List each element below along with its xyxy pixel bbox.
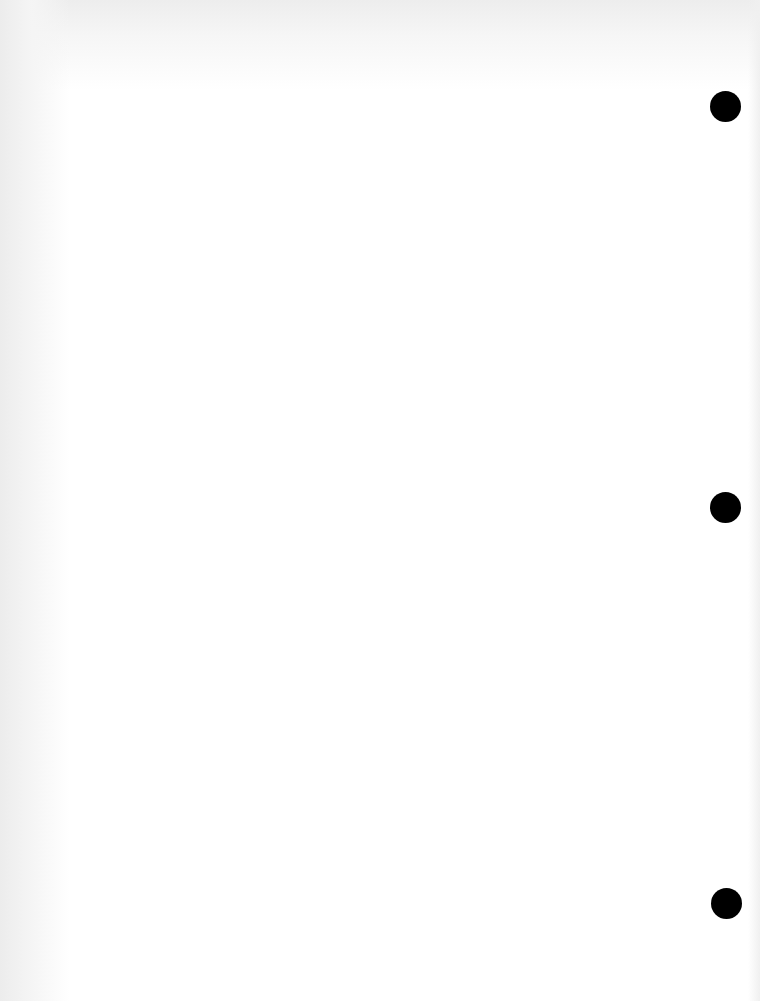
punch-hole-top: [710, 91, 741, 122]
scan-shadow-top: [0, 0, 760, 90]
punch-hole-middle: [710, 492, 741, 523]
scan-shadow-left: [0, 0, 70, 1001]
blank-page: [0, 0, 760, 1001]
scan-shadow-right: [748, 0, 760, 1001]
punch-hole-bottom: [711, 888, 742, 919]
